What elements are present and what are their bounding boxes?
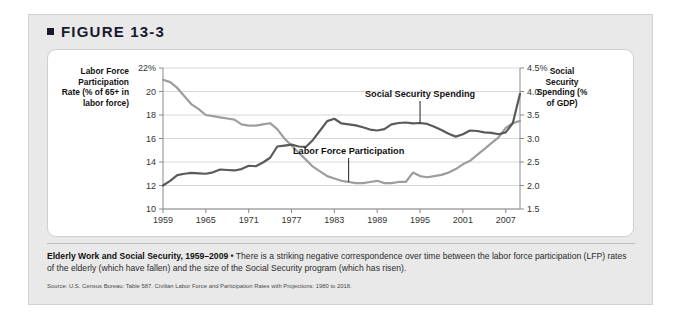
- caption-divider: [47, 243, 635, 244]
- right-axis-tick-labels: 4.5%4.03.53.02.52.01.5: [527, 63, 548, 214]
- x-axis-tick-label: 1959: [153, 215, 173, 225]
- figure-panel: FIGURE 13-3 22%201816141210 4.5%4.03.53.…: [28, 14, 653, 305]
- right-axis-tick-label: 3.5: [527, 110, 540, 120]
- x-axis-tick-label: 1995: [410, 215, 430, 225]
- x-axis-tick-labels: 195919651971197719831989199520012007: [153, 215, 516, 225]
- x-axis-tick-label: 1983: [324, 215, 344, 225]
- right-axis-title: Security: [545, 77, 578, 87]
- series-line-social-security-spending: [163, 94, 520, 186]
- right-axis-tick-label: 4.5%: [527, 63, 548, 73]
- figure-header: FIGURE 13-3: [47, 23, 165, 40]
- left-axis-tick-label: 16: [146, 134, 156, 144]
- right-axis-title: Social: [550, 66, 575, 76]
- left-axis-tick-labels: 22%201816141210: [138, 63, 156, 214]
- caption-block: Elderly Work and Social Security, 1959–2…: [47, 243, 635, 290]
- chart-annotations: Social Security SpendingLabor Force Part…: [293, 89, 475, 182]
- right-axis-tick-label: 2.5: [527, 157, 540, 167]
- x-axis-tick-label: 2001: [453, 215, 473, 225]
- x-axis-tick-label: 1989: [367, 215, 387, 225]
- source-note: Source: U.S. Census Bureau: Table 587. C…: [47, 282, 635, 290]
- left-axis-title: Rate (% of 65+ in: [62, 87, 129, 97]
- left-axis-tick-label: 10: [146, 204, 156, 214]
- left-axis-tick-label: 18: [146, 110, 156, 120]
- left-axis-tick-label: 22%: [138, 63, 156, 73]
- caption-bullet-glyph: •: [231, 251, 234, 261]
- x-axis-tick-label: 1965: [196, 215, 216, 225]
- right-axis-title: Spending (%: [537, 87, 588, 97]
- right-axis-tick-label: 1.5: [527, 204, 540, 214]
- left-axis-title: Labor Force: [81, 66, 130, 76]
- chart-card: 22%201816141210 4.5%4.03.53.02.52.01.5 1…: [47, 49, 634, 237]
- annotation-label: Labor Force Participation: [293, 146, 405, 156]
- x-axis-tick-label: 2007: [496, 215, 516, 225]
- left-axis-title: labor force): [83, 98, 129, 108]
- figure-bullet-icon: [47, 28, 54, 35]
- left-axis-title: Participation: [78, 77, 129, 87]
- left-axis-tick-label: 14: [146, 157, 156, 167]
- annotation-label: Social Security Spending: [365, 89, 475, 99]
- caption-text: Elderly Work and Social Security, 1959–2…: [47, 250, 635, 274]
- right-axis-title: of GDP): [546, 98, 577, 108]
- x-axis-tick-label: 1977: [282, 215, 302, 225]
- chart-svg: 22%201816141210 4.5%4.03.53.02.52.01.5 1…: [48, 50, 633, 236]
- x-axis-ticks: [163, 209, 506, 213]
- x-axis-tick-label: 1971: [239, 215, 259, 225]
- figure-number-label: FIGURE 13-3: [61, 23, 165, 40]
- left-axis-tick-label: 20: [146, 87, 156, 97]
- left-axis-tick-label: 12: [146, 181, 156, 191]
- right-axis-tick-label: 2.0: [527, 181, 540, 191]
- caption-lead: Elderly Work and Social Security, 1959–2…: [47, 251, 228, 261]
- right-axis-tick-label: 3.0: [527, 134, 540, 144]
